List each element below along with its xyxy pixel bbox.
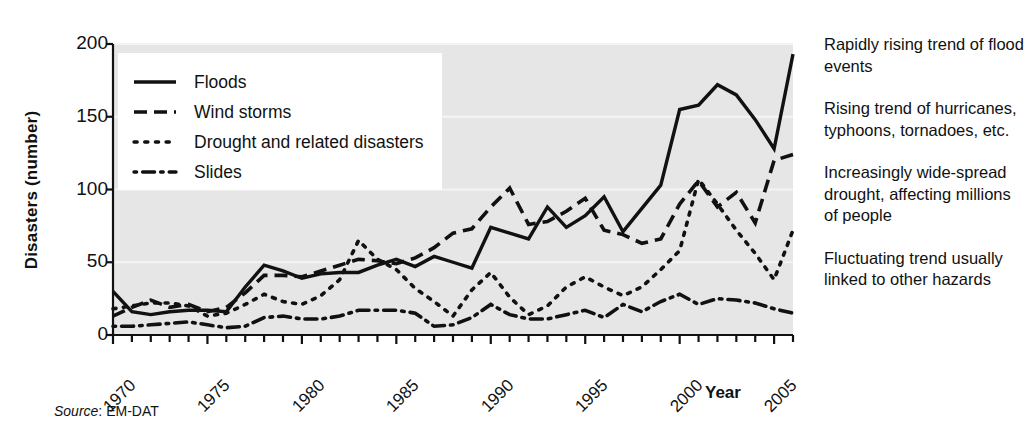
dotted-line-key <box>132 133 188 151</box>
legend-item: Wind storms <box>132 97 442 127</box>
solid-line-key <box>132 73 188 91</box>
source-note: Source: EM-DAT <box>54 403 159 419</box>
dashed-line-key <box>132 103 188 121</box>
legend-item-label: Wind storms <box>194 102 291 123</box>
legend-item-label: Drought and related disasters <box>194 132 424 153</box>
legend-item: Slides <box>132 157 442 187</box>
legend-item-label: Floods <box>194 72 247 93</box>
annotation-slides: Fluctuating trend usually linked to othe… <box>824 248 1024 291</box>
legend-item: Floods <box>132 67 442 97</box>
legend-item: Drought and related disasters <box>132 127 442 157</box>
annotation-wind-storms: Rising trend of hurricanes, typhoons, to… <box>824 98 1024 141</box>
dashdot-line-key <box>132 163 188 181</box>
source-label: Source <box>54 403 98 419</box>
chart-legend: Floods Wind storms Drought and related d… <box>118 53 442 190</box>
annotation-list: Rapidly rising trend of flood events Ris… <box>824 34 1024 291</box>
source-value: EM-DAT <box>106 403 159 419</box>
chart-figure: Disasters (number) 200150100500 19701975… <box>0 0 1030 433</box>
x-axis-title: Year <box>705 383 741 403</box>
annotation-drought: Increasingly wide-spread drought, affect… <box>824 162 1024 227</box>
legend-item-label: Slides <box>194 162 242 183</box>
source-separator: : <box>98 403 106 419</box>
annotation-floods: Rapidly rising trend of flood events <box>824 34 1024 77</box>
